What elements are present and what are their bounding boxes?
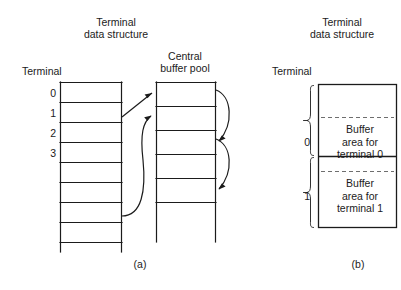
panel-b-caption: (b): [343, 258, 373, 270]
panel-b-drawing: [0, 0, 401, 290]
panel-b-brace-1: [307, 158, 314, 228]
panel-b-brace-0: [307, 86, 314, 156]
figure-canvas: Terminal data structure Terminal Central…: [0, 0, 401, 290]
